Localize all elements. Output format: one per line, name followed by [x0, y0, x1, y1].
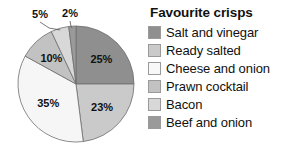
legend-item-bacon: Bacon: [148, 95, 300, 113]
legend-item-label: Cheese and onion: [166, 61, 270, 76]
legend-swatch-icon: [148, 98, 161, 111]
legend-item-label: Beef and onion: [166, 115, 252, 130]
pie-callout-value-label: 2%: [62, 7, 78, 19]
legend-swatch-icon: [148, 44, 161, 57]
legend: Favourite crisps Salt and vinegar Ready …: [148, 4, 300, 131]
pie-slice-value-label: 23%: [91, 101, 113, 113]
legend-title: Favourite crisps: [150, 4, 300, 22]
legend-item-beef-and-onion: Beef and onion: [148, 113, 300, 131]
legend-swatch-icon: [148, 80, 161, 93]
pie-slice-value-label: 25%: [90, 53, 112, 65]
pie-chart-figure: 25%23%35%10% 5%2% Favourite crisps Salt …: [0, 0, 300, 144]
legend-item-cheese-and-onion: Cheese and onion: [148, 59, 300, 77]
legend-item-label: Salt and vinegar: [166, 25, 258, 40]
pie-slice-value-label: 10%: [40, 52, 62, 64]
pie-slice-value-label: 35%: [37, 97, 59, 109]
pie-chart-area: 25%23%35%10% 5%2%: [0, 0, 146, 144]
legend-item-prawn-cocktail: Prawn cocktail: [148, 77, 300, 95]
pie-slices-group: [18, 26, 134, 142]
legend-item-label: Prawn cocktail: [166, 79, 248, 94]
legend-item-label: Bacon: [166, 97, 202, 112]
legend-swatch-icon: [148, 116, 161, 129]
pie-callout-labels-group: 5%2%: [32, 7, 78, 20]
legend-swatch-icon: [148, 62, 161, 75]
legend-item-label: Ready salted: [166, 43, 241, 58]
legend-swatch-icon: [148, 26, 161, 39]
legend-item-salt-and-vinegar: Salt and vinegar: [148, 23, 300, 41]
legend-item-ready-salted: Ready salted: [148, 41, 300, 59]
pie-chart-svg: 25%23%35%10% 5%2%: [0, 0, 146, 144]
pie-callout-value-label: 5%: [32, 8, 48, 20]
